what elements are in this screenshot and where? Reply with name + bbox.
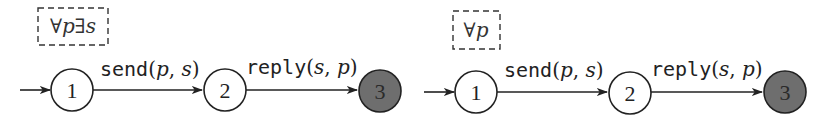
action-name: reply bbox=[651, 57, 711, 81]
action-name: reply bbox=[246, 55, 306, 79]
automaton-right: ∀p 1 send(p, s) 2 reply(s, p) 3 bbox=[424, 11, 806, 114]
quantifier-label: ∀p∃s bbox=[50, 14, 96, 38]
state-label: 3 bbox=[780, 80, 791, 105]
state-1: 1 bbox=[51, 69, 93, 111]
state-2: 2 bbox=[204, 69, 246, 111]
transition-label: reply(s, p) bbox=[651, 57, 763, 81]
state-3-final: 3 bbox=[359, 70, 401, 112]
quantifier-label: ∀p bbox=[464, 18, 489, 42]
state-1: 1 bbox=[455, 71, 497, 113]
automata-diagram: ∀p∃s 1 send(p, s) 2 reply(s, p) 3 bbox=[0, 0, 835, 126]
state-label: 2 bbox=[220, 78, 231, 103]
transition-label: reply(s, p) bbox=[246, 55, 358, 79]
state-label: 1 bbox=[67, 78, 78, 103]
quantifier-box: ∀p∃s bbox=[38, 8, 108, 45]
transition-reply: reply(s, p) bbox=[246, 55, 358, 90]
automaton-left: ∀p∃s 1 send(p, s) 2 reply(s, p) 3 bbox=[20, 8, 401, 112]
transition-reply: reply(s, p) bbox=[651, 57, 763, 92]
state-label: 3 bbox=[375, 79, 386, 104]
state-3-final: 3 bbox=[764, 71, 806, 113]
state-2: 2 bbox=[609, 72, 651, 114]
transition-label: send(p, s) bbox=[504, 58, 604, 82]
transition-label: send(p, s) bbox=[100, 57, 200, 81]
quantifier-box: ∀p bbox=[453, 11, 500, 49]
action-name: send bbox=[504, 58, 552, 82]
action-name: send bbox=[100, 57, 148, 81]
transition-send: send(p, s) bbox=[497, 58, 607, 92]
state-label: 1 bbox=[471, 80, 482, 105]
transition-send: send(p, s) bbox=[93, 57, 202, 90]
state-label: 2 bbox=[625, 81, 636, 106]
